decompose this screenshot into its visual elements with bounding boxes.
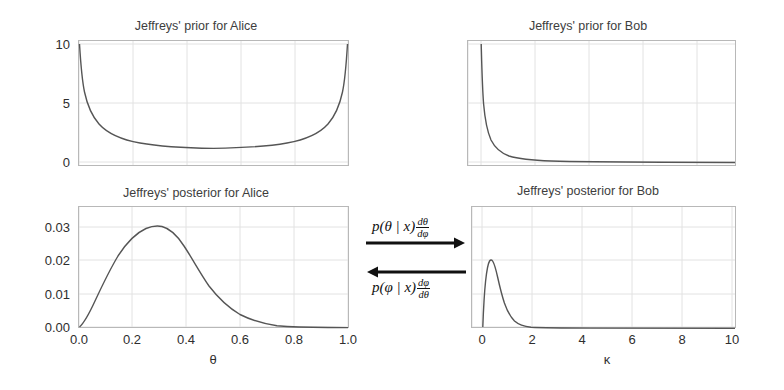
xtick-posterior-bob-1: 2 [528, 332, 535, 347]
backward-frac-numerator: dφ [417, 277, 430, 289]
ytick-posterior-alice-002: 0.02 [14, 253, 70, 268]
arrow-forward [366, 236, 466, 250]
panel-posterior-bob: Jeffreys' posterior for Bob [392, 180, 784, 390]
gridlines-prior-alice [78, 40, 349, 166]
xlabel-posterior-bob: κ [604, 352, 611, 367]
xtick-posterior-bob-3: 6 [628, 332, 635, 347]
gridlines-posterior-alice [78, 206, 349, 328]
forward-frac-numerator: dθ [416, 216, 429, 228]
xtick-posterior-alice-5: 1.0 [339, 332, 357, 347]
axes-posterior-bob [471, 206, 736, 328]
backward-expr-text: p(φ | x) [372, 279, 416, 295]
xtick-posterior-bob-5: 10 [725, 332, 739, 347]
xtick-posterior-bob-0: 0 [478, 332, 485, 347]
panel-prior-alice: Jeffreys' prior for Alice 10 5 0 [0, 0, 392, 180]
panel-title-posterior-bob: Jeffreys' posterior for Bob [392, 184, 784, 198]
panel-title-prior-bob: Jeffreys' prior for Bob [392, 19, 784, 33]
forward-expr-text: p(θ | x) [372, 218, 415, 234]
gridlines-posterior-bob [471, 206, 736, 328]
ytick-prior-alice-5: 5 [34, 96, 70, 111]
curve-prior-alice [80, 44, 348, 148]
ytick-prior-alice-10: 10 [34, 37, 70, 52]
xtick-posterior-alice-0: 0.0 [70, 332, 88, 347]
ytick-posterior-alice-001: 0.01 [14, 287, 70, 302]
panel-prior-bob: Jeffreys' prior for Bob [392, 0, 784, 180]
backward-derivative-fraction: dφdθ [417, 277, 430, 300]
curve-posterior-alice [80, 226, 349, 328]
xtick-posterior-alice-3: 0.6 [231, 332, 249, 347]
annotation-backward-expression: p(φ | x)dφdθ [372, 277, 430, 300]
figure-canvas: Jeffreys' prior for Alice 10 5 0 [0, 0, 784, 390]
xtick-posterior-alice-2: 0.4 [177, 332, 195, 347]
xlabel-posterior-alice: θ [209, 352, 216, 367]
panel-title-prior-alice: Jeffreys' prior for Alice [0, 19, 392, 33]
xtick-posterior-bob-2: 4 [578, 332, 585, 347]
gridlines-prior-bob [467, 40, 736, 166]
ytick-posterior-alice-000: 0.00 [14, 320, 70, 335]
panel-posterior-alice: Jeffreys' posterior for Alice 0.03 0.02 … [0, 180, 392, 390]
xtick-posterior-alice-4: 0.8 [285, 332, 303, 347]
axes-posterior-alice [78, 206, 349, 328]
ytick-prior-alice-0: 0 [34, 155, 70, 170]
axes-prior-alice [78, 40, 349, 166]
ytick-posterior-alice-003: 0.03 [14, 220, 70, 235]
xtick-posterior-alice-1: 0.2 [123, 332, 141, 347]
backward-frac-denominator: dθ [417, 289, 430, 300]
axes-prior-bob [467, 40, 736, 166]
panel-title-posterior-alice: Jeffreys' posterior for Alice [0, 186, 392, 200]
xtick-posterior-bob-4: 8 [678, 332, 685, 347]
